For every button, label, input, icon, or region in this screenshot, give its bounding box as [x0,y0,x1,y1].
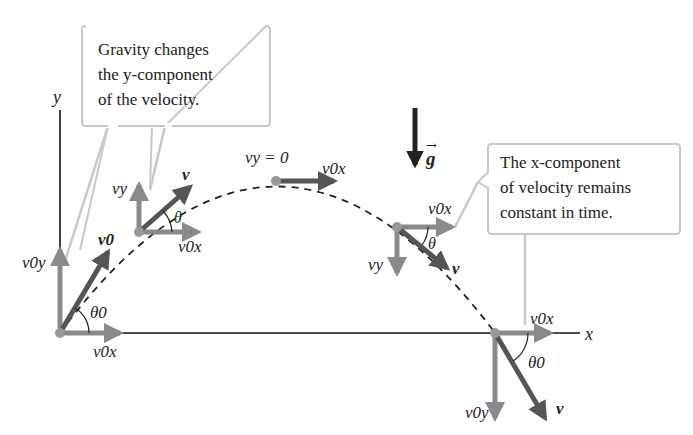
projectile-diagram: y x Gravity changes the y-component of t… [0,0,693,435]
launch-vy-label: v0y [22,253,46,272]
apex-vx-label: v0x [322,159,346,178]
vector-arrow-glyph: → [426,138,437,153]
rising-angle-label: θ [174,209,182,226]
point-apex: vy = 0 v0x [245,148,346,186]
rising-vy-label: vy [112,179,128,198]
falling-vx-label: v0x [428,199,452,218]
landing-vx-label: v0x [530,309,554,328]
falling-angle-label: θ [428,235,436,252]
gravity-vector: g → [415,108,437,169]
rising-vx-label: v0x [178,237,202,256]
landing-v-label: v [556,399,564,418]
falling-v-label: v [452,259,460,278]
x-axis-label: x [584,324,593,344]
landing-angle-label: θ0 [528,353,545,372]
launch-v-label: v0 [98,230,115,249]
point-rising: vy v θ v0x [112,165,202,256]
falling-vy-label: vy [368,255,384,274]
callout-gravity: Gravity changes the y-component of the v… [66,26,270,258]
launch-angle-label: θ0 [90,303,107,322]
launch-vx-label: v0x [93,342,117,361]
point-falling: v0x θ vy v [368,199,460,278]
point-launch: v0y v0 θ0 v0x [22,230,120,361]
callout-xconst-line-1: The x-component [500,153,621,172]
callout-xconst-line-2: of velocity remains [500,178,631,197]
callout-gravity-line-1: Gravity changes [98,40,209,59]
apex-vy-zero-label: vy = 0 [245,148,289,167]
callout-xconst: The x-component of velocity remains cons… [455,144,680,325]
y-axis-label: y [51,87,61,107]
callout-gravity-line-2: the y-component [98,65,213,84]
callout-xconst-line-3: constant in time. [500,203,613,222]
rising-v-label: v [182,165,190,184]
callout-gravity-line-3: of the velocity. [98,90,199,109]
landing-vy-label: v0y [465,403,489,422]
point-landing: v0x θ0 v0y v [465,309,564,422]
